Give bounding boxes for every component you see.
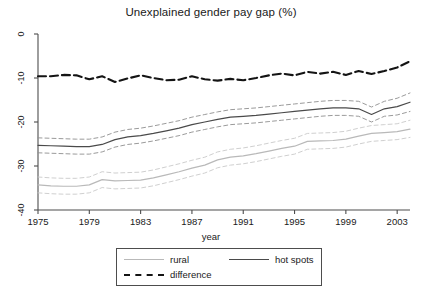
x-tick-label: 1999 [326,216,366,227]
x-tick-label: 1991 [223,216,263,227]
chart-figure: Unexplained gender pay gap (%) 0-10-20-3… [0,0,422,296]
legend-label-difference: difference [170,269,212,280]
series-line-rural-upper-ci [38,120,410,178]
x-tick-label: 1995 [275,216,315,227]
y-tick-label: 0 [15,22,27,46]
x-tick-label: 1983 [121,216,161,227]
y-tick-label: -20 [15,110,27,134]
legend-label-rural: rural [170,254,189,265]
x-axis-label: year [0,231,422,242]
legend-label-hot-spots: hot spots [275,254,314,265]
legend-line-hot-spots-icon [229,255,269,265]
data-series-group [38,61,410,194]
x-axis-ticks [38,210,397,214]
x-tick-label: 1987 [172,216,212,227]
legend-item-rural: rural [124,254,189,265]
y-axis-ticks [34,34,38,210]
x-tick-label: 1979 [69,216,109,227]
series-line-hot-spots [38,102,410,146]
x-tick-label: 2003 [377,216,417,227]
series-line-rural [38,129,410,186]
legend-line-rural-icon [124,255,164,265]
x-tick-label: 1975 [18,216,58,227]
y-tick-label: -30 [15,154,27,178]
axes [34,34,410,214]
legend-line-difference-icon [124,270,164,280]
legend-item-hot-spots: hot spots [229,254,314,265]
legend-item-difference: difference [124,269,212,280]
y-tick-label: -10 [15,66,27,90]
series-line-difference [38,61,410,82]
series-line-hot-spots-upper-ci [38,93,410,139]
chart-legend: rural hot spots difference [116,248,322,286]
